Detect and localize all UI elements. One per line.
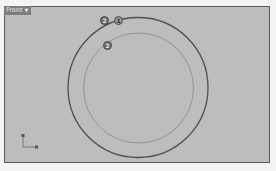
snap-marker-2: 2 [100, 16, 109, 25]
inner-circle[interactable] [84, 33, 194, 143]
outer-circle[interactable] [68, 18, 208, 158]
axis-gizmo-icon [22, 134, 39, 149]
snap-marker-2b: 2 [103, 41, 112, 50]
scene-canvas [0, 0, 276, 171]
snap-marker-1: 1 [114, 16, 123, 25]
